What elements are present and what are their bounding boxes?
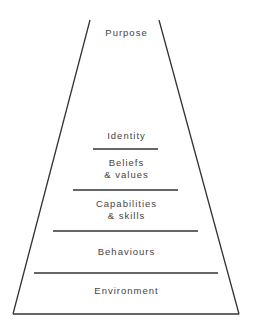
level-behaviours: Behaviours xyxy=(0,246,253,258)
level-identity: Identity xyxy=(0,130,253,142)
level-beliefs-line1: Beliefs xyxy=(0,157,253,169)
level-beliefs-line2: & values xyxy=(0,169,253,181)
level-capabilities-line1: Capabilities xyxy=(0,198,253,210)
level-purpose: Purpose xyxy=(0,27,253,39)
level-environment: Environment xyxy=(0,285,253,297)
level-capabilities-line2: & skills xyxy=(0,210,253,222)
